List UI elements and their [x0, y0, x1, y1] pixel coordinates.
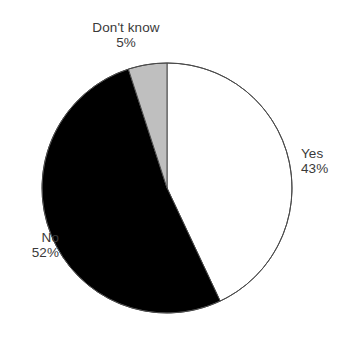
- pie-label-yes: Yes 43%: [301, 146, 343, 176]
- pie-label-dont-know-name: Don't know: [70, 20, 182, 35]
- pie-label-yes-name: Yes: [301, 146, 343, 161]
- pie-label-dont-know-value: 5%: [70, 35, 182, 50]
- pie-label-no-name: No: [2, 230, 59, 245]
- pie-label-yes-value: 43%: [301, 161, 343, 176]
- pie-chart-canvas: [0, 0, 343, 342]
- pie-slices: [42, 63, 292, 313]
- pie-label-dont-know: Don't know 5%: [70, 20, 182, 50]
- pie-chart: Don't know 5% Yes 43% No 52%: [0, 0, 343, 342]
- pie-label-no-value: 52%: [2, 245, 59, 260]
- pie-label-no: No 52%: [2, 230, 59, 260]
